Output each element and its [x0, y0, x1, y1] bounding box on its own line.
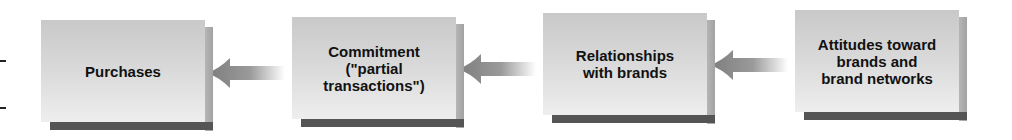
- box-face: Relationships with brands: [543, 13, 707, 115]
- box-label: Purchases: [85, 63, 161, 80]
- box-commitment: Commitment ("partial transactions"): [292, 17, 456, 119]
- box-bottom-shadow: [804, 112, 967, 120]
- margin-tick-bottom: [0, 107, 6, 109]
- box-label: Relationships with brands: [576, 47, 674, 81]
- box-side-shadow: [456, 24, 464, 128]
- box-side-shadow: [707, 20, 715, 124]
- box-label: Commitment ("partial transactions"): [323, 43, 424, 94]
- box-side-shadow: [959, 17, 967, 121]
- box-bottom-shadow: [301, 119, 464, 127]
- box-relationships: Relationships with brands: [543, 13, 707, 115]
- box-purchases: Purchases: [41, 20, 205, 122]
- arrow-left-icon: [456, 54, 536, 84]
- box-bottom-shadow: [50, 122, 213, 130]
- box-face: Purchases: [41, 20, 205, 122]
- box-bottom-shadow: [552, 115, 715, 123]
- margin-tick-top: [0, 60, 6, 62]
- box-side-shadow: [205, 27, 213, 131]
- box-attitudes: Attitudes toward brands and brand networ…: [795, 10, 959, 112]
- arrow-left-icon: [708, 50, 788, 80]
- arrow-left-icon: [205, 58, 285, 88]
- box-label: Attitudes toward brands and brand networ…: [818, 36, 936, 87]
- box-face: Attitudes toward brands and brand networ…: [795, 10, 959, 112]
- box-face: Commitment ("partial transactions"): [292, 17, 456, 119]
